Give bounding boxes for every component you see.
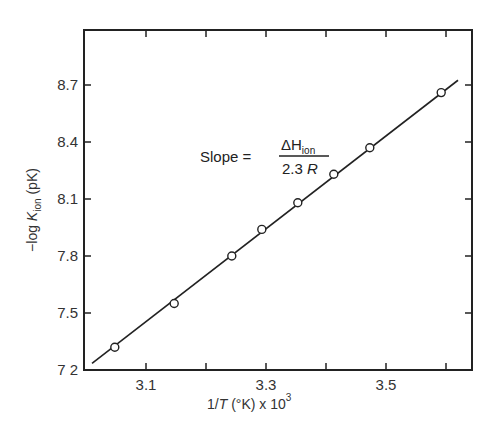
plot-frame [84,30,472,370]
slope-denominator: 2.3 R [282,160,318,177]
regression-line [92,80,458,363]
slope-annotation: Slope = ΔHion 2.3 R [200,136,329,177]
data-point [228,252,236,260]
data-point [437,89,445,97]
y-tick-label: 8.1 [57,190,78,207]
plot-border [84,30,472,370]
x-tick-label: 3.5 [376,376,397,393]
y-tick-label: 7.5 [57,304,78,321]
data-point [111,343,119,351]
data-point [330,170,338,178]
slope-label: Slope = [200,148,252,165]
y-tick-label: 7 2 [57,361,78,378]
x-tick-label: 3.3 [256,376,277,393]
data-point [294,199,302,207]
data-point [170,300,178,308]
y-tick-label: 8.4 [57,133,78,150]
x-axis-ticks: 3.13.33.5 [136,30,446,393]
data-point [258,225,266,233]
y-axis-label: −log Kion (pK) [24,168,43,252]
y-tick-label: 7.8 [57,247,78,264]
data-point [366,144,374,152]
x-axis-label: 1/T (°K) x 103 [207,392,292,412]
x-tick-label: 3.1 [136,376,157,393]
fit-line [92,80,458,363]
y-tick-label: 8.7 [57,76,78,93]
chart: 3.13.33.5 7 27.57.88.18.48.7 −log Kion (… [0,0,497,432]
slope-numerator: ΔHion [281,136,315,156]
